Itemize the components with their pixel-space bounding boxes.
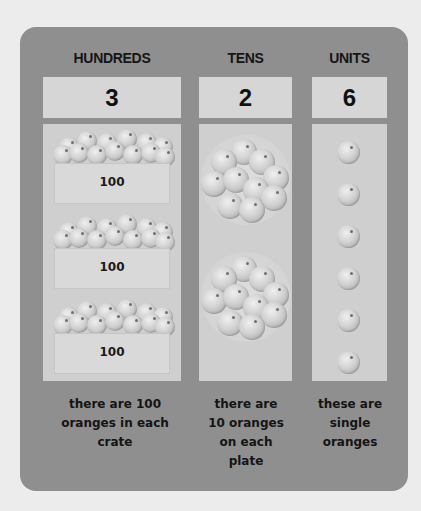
orange-icon bbox=[123, 230, 143, 250]
units-header: UNITS bbox=[312, 50, 387, 72]
caption-line: 10 oranges bbox=[196, 414, 296, 433]
caption-line: plate bbox=[196, 452, 296, 471]
units-caption: these are single oranges bbox=[308, 395, 392, 452]
caption-line: crate bbox=[40, 433, 190, 452]
crate-label: 100 bbox=[53, 260, 171, 274]
hundreds-caption: there are 100 oranges in each crate bbox=[40, 395, 190, 452]
caption-line: there are bbox=[196, 395, 296, 414]
tens-digit: 2 bbox=[199, 77, 292, 118]
caption-line: oranges bbox=[308, 433, 392, 452]
orange-plate-icon bbox=[201, 252, 291, 342]
crate-label: 100 bbox=[53, 345, 171, 359]
orange-plate-icon bbox=[201, 135, 291, 225]
crate-label: 100 bbox=[53, 175, 171, 189]
caption-line: oranges in each bbox=[40, 414, 190, 433]
orange-icon bbox=[87, 315, 107, 335]
caption-line: there are 100 bbox=[40, 395, 190, 414]
orange-icon bbox=[69, 228, 89, 248]
hundreds-digit: 3 bbox=[43, 77, 181, 118]
orange-crate: 100 bbox=[53, 127, 171, 205]
orange-icon bbox=[87, 145, 107, 165]
units-digit: 6 bbox=[312, 77, 387, 118]
orange-icon bbox=[69, 313, 89, 333]
orange-icon bbox=[337, 183, 360, 206]
orange-icon bbox=[69, 143, 89, 163]
tens-caption: there are 10 oranges on each plate bbox=[196, 395, 296, 471]
hundreds-content: 100 100 100 bbox=[43, 124, 181, 381]
hundreds-header: HUNDREDS bbox=[43, 50, 181, 72]
orange-icon bbox=[337, 267, 360, 290]
orange-icon bbox=[239, 314, 265, 340]
orange-icon bbox=[105, 311, 125, 331]
caption-line: on each bbox=[196, 433, 296, 452]
orange-icon bbox=[261, 302, 287, 328]
orange-crate: 100 bbox=[53, 297, 171, 375]
orange-icon bbox=[261, 185, 287, 211]
orange-icon bbox=[123, 315, 143, 335]
tens-header: TENS bbox=[199, 50, 292, 72]
orange-crate: 100 bbox=[53, 212, 171, 290]
orange-icon bbox=[105, 226, 125, 246]
orange-icon bbox=[337, 225, 360, 248]
orange-icon bbox=[337, 309, 360, 332]
orange-icon bbox=[87, 230, 107, 250]
orange-icon bbox=[105, 141, 125, 161]
orange-icon bbox=[123, 145, 143, 165]
caption-line: these are bbox=[308, 395, 392, 414]
orange-icon bbox=[337, 351, 360, 374]
tens-content bbox=[199, 124, 292, 381]
orange-icon bbox=[337, 141, 360, 164]
orange-icon bbox=[239, 197, 265, 223]
caption-line: single bbox=[308, 414, 392, 433]
units-content bbox=[312, 124, 387, 381]
